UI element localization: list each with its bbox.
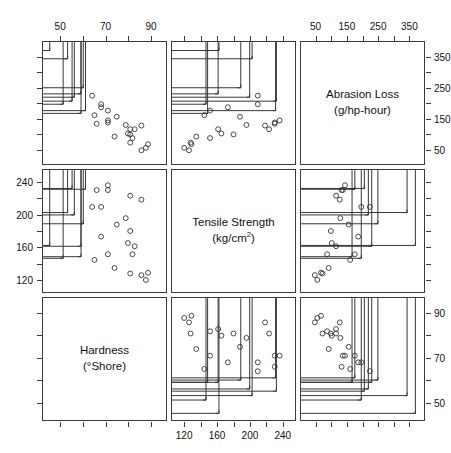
- axis-tick: [331, 422, 332, 427]
- axis-tick: [426, 231, 431, 232]
- diagonal-label-line1: Hardness: [80, 343, 129, 359]
- axis-tick: [426, 57, 431, 58]
- axis-tick: [201, 36, 202, 41]
- axis-tick: [37, 182, 42, 183]
- axis-tick: [363, 422, 364, 427]
- axis-tick: [151, 36, 152, 41]
- diagonal-label-line2: (°Shore): [83, 359, 126, 375]
- axis-tick: [426, 150, 431, 151]
- diagonal-label-tensile: Tensile Strength (kg/cm2): [172, 170, 295, 292]
- axis-tick: [426, 358, 431, 359]
- panel-tensile-vs-abrasion: [300, 169, 425, 293]
- axis-tick: [106, 422, 107, 427]
- tick-label: 350: [434, 51, 451, 62]
- axis-tick: [426, 134, 431, 135]
- axis-tick: [250, 422, 251, 427]
- axis-tick: [37, 358, 42, 359]
- axis-tick: [37, 57, 42, 58]
- axis-tick: [409, 36, 410, 41]
- tick-label: 200: [16, 209, 33, 220]
- axis-tick: [426, 247, 431, 248]
- axis-tick: [184, 36, 185, 41]
- axis-tick: [426, 119, 431, 120]
- axis-tick: [37, 231, 42, 232]
- panel-tensile-vs-hardness: [42, 169, 167, 293]
- axis-tick: [426, 198, 431, 199]
- axis-tick: [347, 422, 348, 427]
- axis-tick: [37, 380, 42, 381]
- axis-tick: [426, 182, 431, 183]
- axis-tick: [331, 36, 332, 41]
- axis-tick: [37, 134, 42, 135]
- tick-label: 160: [16, 242, 33, 253]
- axis-tick: [151, 422, 152, 427]
- panel-label-abrasion-loss: Abrasion Loss (g/hp-hour): [300, 41, 425, 165]
- panel-label-hardness: Hardness (°Shore): [42, 297, 167, 421]
- axis-tick: [234, 422, 235, 427]
- tick-label: 90: [146, 21, 157, 32]
- axis-tick: [426, 403, 431, 404]
- tick-label: 120: [16, 274, 33, 285]
- tick-label: 160: [209, 430, 226, 441]
- axis-tick: [394, 422, 395, 427]
- axis-tick: [426, 313, 431, 314]
- tick-label: 50: [310, 21, 321, 32]
- axis-tick: [37, 403, 42, 404]
- tick-label: 70: [100, 21, 111, 32]
- tick-label: 240: [274, 430, 291, 441]
- panel-label-tensile-strength: Tensile Strength (kg/cm2): [171, 169, 296, 293]
- axis-tick: [128, 36, 129, 41]
- axis-tick: [37, 88, 42, 89]
- axis-tick: [37, 150, 42, 151]
- axis-tick: [37, 72, 42, 73]
- axis-tick: [283, 422, 284, 427]
- axis-tick: [37, 103, 42, 104]
- tick-label: 50: [434, 397, 445, 408]
- axis-tick: [60, 422, 61, 427]
- axis-tick: [37, 247, 42, 248]
- axis-tick: [426, 103, 431, 104]
- axis-tick: [316, 36, 317, 41]
- axis-tick: [37, 264, 42, 265]
- axis-tick: [128, 422, 129, 427]
- diagonal-label-abrasion: Abrasion Loss (g/hp-hour): [301, 42, 424, 164]
- axis-tick: [316, 422, 317, 427]
- tick-label: 350: [401, 21, 418, 32]
- axis-tick: [250, 36, 251, 41]
- axis-tick: [37, 335, 42, 336]
- panel-abrasion-vs-hardness: [42, 41, 167, 165]
- tick-label: 50: [55, 21, 66, 32]
- tick-label: 70: [434, 352, 445, 363]
- tick-label: 200: [242, 430, 259, 441]
- axis-tick: [217, 422, 218, 427]
- axis-tick: [378, 422, 379, 427]
- panel-abrasion-vs-tensile: [171, 41, 296, 165]
- tick-label: 250: [434, 82, 451, 93]
- axis-tick: [234, 36, 235, 41]
- axis-tick: [426, 88, 431, 89]
- axis-tick: [83, 36, 84, 41]
- tick-label: 240: [16, 177, 33, 188]
- tick-label: 250: [370, 21, 387, 32]
- axis-tick: [426, 280, 431, 281]
- axis-tick: [37, 215, 42, 216]
- units-text: (kg/cm: [212, 232, 247, 244]
- axis-tick: [217, 36, 218, 41]
- diagonal-label-line1: Tensile Strength: [192, 215, 274, 231]
- axis-tick: [378, 36, 379, 41]
- axis-tick: [106, 36, 107, 41]
- axis-tick: [394, 36, 395, 41]
- diagonal-label-hardness: Hardness (°Shore): [43, 298, 166, 420]
- axis-tick: [426, 264, 431, 265]
- tick-label: 90: [434, 307, 445, 318]
- diagonal-label-line2: (g/hp-hour): [334, 103, 391, 119]
- axis-tick: [60, 36, 61, 41]
- axis-tick: [409, 422, 410, 427]
- axis-tick: [37, 280, 42, 281]
- axis-tick: [363, 36, 364, 41]
- axis-tick: [37, 313, 42, 314]
- panel-hardness-vs-tensile: [171, 297, 296, 421]
- axis-tick: [37, 119, 42, 120]
- tick-label: 150: [339, 21, 356, 32]
